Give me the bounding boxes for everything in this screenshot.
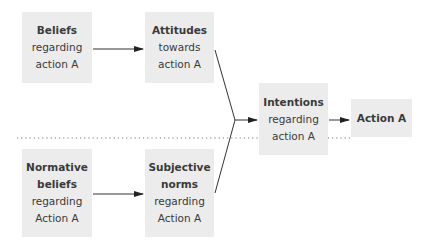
line-attitudes-to-merge — [215, 50, 235, 120]
line-subjective-to-merge — [215, 120, 235, 193]
box-beliefs-line: action A — [36, 56, 79, 73]
box-intentions-line: regarding — [268, 111, 319, 128]
box-action: Action A — [351, 99, 412, 137]
box-action-title: Action A — [357, 110, 406, 127]
box-beliefs: Beliefs regarding action A — [22, 12, 92, 83]
box-subjective-line: regarding — [154, 193, 205, 210]
box-subjective-title: norms — [161, 176, 198, 193]
box-attitudes-line: action A — [158, 56, 201, 73]
box-subjective-line: Action A — [158, 210, 201, 227]
box-normative-title: Normative — [26, 159, 88, 176]
box-intentions-line: action A — [272, 128, 315, 145]
box-attitudes-line: towards — [159, 39, 201, 56]
box-intentions-title: Intentions — [263, 94, 324, 111]
box-normative-beliefs: Normative beliefs regarding Action A — [22, 149, 92, 237]
box-normative-title: beliefs — [37, 176, 77, 193]
box-beliefs-title: Beliefs — [37, 22, 77, 39]
box-subjective-title: Subjective — [148, 159, 210, 176]
box-subjective-norms: Subjective norms regarding Action A — [145, 149, 214, 237]
box-intentions: Intentions regarding action A — [259, 83, 328, 155]
box-attitudes-title: Attitudes — [152, 22, 207, 39]
box-attitudes: Attitudes towards action A — [145, 12, 214, 83]
box-normative-line: Action A — [35, 210, 78, 227]
box-normative-line: regarding — [32, 193, 83, 210]
box-beliefs-line: regarding — [32, 39, 83, 56]
